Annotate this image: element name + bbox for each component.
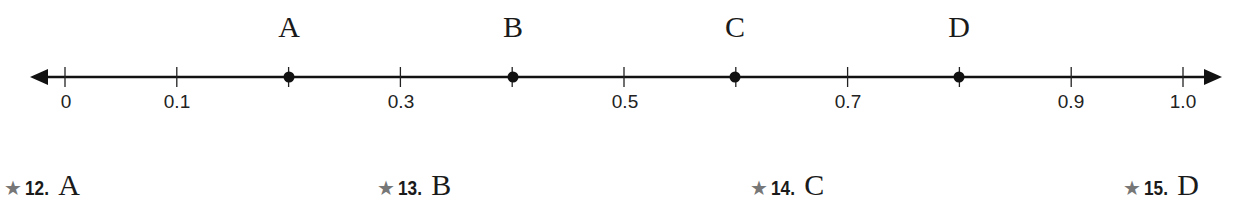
exercise-15: ★ 15. D — [1123, 170, 1199, 199]
tick-label-0-9: 0.9 — [1058, 92, 1084, 111]
point-dot-a — [284, 72, 295, 83]
point-dot-d — [954, 72, 965, 83]
exercise-number: 15. — [1144, 177, 1168, 198]
tick-label-0: 0 — [61, 92, 72, 111]
exercise-letter: D — [1177, 170, 1199, 199]
exercise-13: ★ 13. B — [377, 170, 451, 199]
exercise-letter: A — [58, 170, 80, 199]
exercise-number: 14. — [771, 177, 795, 198]
exercise-letter: C — [804, 170, 824, 199]
exercise-number: 12. — [25, 177, 49, 198]
left-arrow-icon — [30, 69, 48, 85]
point-label-d: D — [948, 12, 970, 42]
exercise-12: ★ 12. A — [4, 170, 80, 199]
exercise-number: 13. — [398, 177, 422, 198]
exercise-14: ★ 14. C — [750, 170, 824, 199]
exercise-letter: B — [431, 170, 451, 199]
point-label-c: C — [725, 12, 745, 42]
point-dot-b — [508, 72, 519, 83]
star-icon: ★ — [4, 178, 22, 198]
tick-label-0-3: 0.3 — [388, 92, 414, 111]
tick-label-1-0: 1.0 — [1170, 92, 1196, 111]
tick-label-0-7: 0.7 — [835, 92, 861, 111]
right-arrow-icon — [1204, 69, 1222, 85]
star-icon: ★ — [750, 178, 768, 198]
star-icon: ★ — [377, 178, 395, 198]
point-label-b: B — [503, 12, 523, 42]
point-label-a: A — [278, 12, 300, 42]
tick-label-0-5: 0.5 — [612, 92, 638, 111]
star-icon: ★ — [1123, 178, 1141, 198]
tick-label-0-1: 0.1 — [164, 92, 190, 111]
point-dot-c — [730, 72, 741, 83]
